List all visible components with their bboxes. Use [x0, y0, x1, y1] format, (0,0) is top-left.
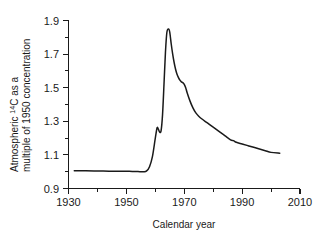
- y-axis-title-superscript: 14: [9, 106, 16, 114]
- x-axis-title: Calendar year: [153, 219, 216, 230]
- y-axis-title-part-a: Atmospheric: [9, 114, 20, 172]
- y-axis-title-line2: multiple of 1950 concentration: [21, 39, 32, 172]
- y-tick-label-1: 1.1: [44, 149, 59, 161]
- chart-page: Atmospheric 14C as a multiple of 1950 co…: [0, 0, 321, 240]
- data-series-line: [74, 29, 279, 172]
- y-tick-label-0: 0.9: [44, 183, 59, 195]
- x-tick-label-0: 1930: [56, 196, 80, 208]
- x-axis-ticks: 1930 1950 1970 1990 2010: [56, 189, 312, 209]
- y-tick-label-4: 1.7: [44, 48, 59, 60]
- x-tick-label-2: 1970: [172, 196, 196, 208]
- y-axis-ticks: 0.9 1.1 1.3 1.5 1.7 1.9: [44, 15, 69, 195]
- y-axis-title: Atmospheric 14C as a multiple of 1950 co…: [9, 39, 32, 172]
- y-tick-label-2: 1.3: [44, 115, 59, 127]
- axis-frame: [69, 20, 301, 189]
- y-tick-label-5: 1.9: [44, 15, 59, 27]
- x-tick-label-4: 2010: [288, 196, 312, 208]
- y-axis-title-part-b: C as a: [9, 77, 20, 106]
- bomb-curve-chart: Atmospheric 14C as a multiple of 1950 co…: [0, 0, 321, 240]
- y-tick-label-3: 1.5: [44, 82, 59, 94]
- x-tick-label-3: 1990: [230, 196, 254, 208]
- x-tick-label-1: 1950: [114, 196, 138, 208]
- y-axis-title-line1: Atmospheric 14C as a: [9, 77, 20, 172]
